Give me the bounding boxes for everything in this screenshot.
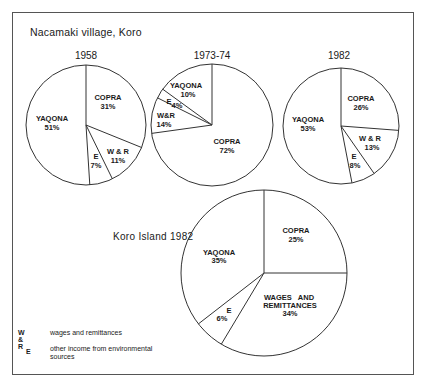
p4-copra-label: COPRA <box>282 226 310 235</box>
p1-yaqona-value: 51% <box>44 123 59 132</box>
p1-wr-label: W & R <box>107 147 130 156</box>
p1-copra-label: COPRA <box>94 93 122 102</box>
p2-e-value: 4% <box>172 101 183 110</box>
p3-copra-label: COPRA <box>347 94 375 103</box>
p2-wr-label: W&R <box>157 111 175 120</box>
p1-copra-value: 31% <box>100 102 115 111</box>
p4-yaqona-value: 35% <box>211 256 226 265</box>
p4-e-value: 6% <box>217 314 228 323</box>
p4-wr-value: 34% <box>282 309 297 318</box>
p2-wr-value: 14% <box>156 120 171 129</box>
p3-yaqona-label: YAQONA <box>292 115 325 124</box>
p2-copra-value: 72% <box>219 146 234 155</box>
p3-yaqona-value: 53% <box>300 124 315 133</box>
p3-wr-value: 13% <box>364 143 379 152</box>
p3-wr-label: W & R <box>359 134 382 143</box>
p1-e-label: E <box>93 152 98 161</box>
legend-key: E <box>26 348 31 355</box>
p1-yaqona-label: YAQONA <box>36 114 69 123</box>
p3-e-value: 8% <box>350 161 361 170</box>
p4-copra-value: 25% <box>288 235 303 244</box>
p3-copra-value: 26% <box>353 103 368 112</box>
pie-koro-island-1982 <box>181 190 347 356</box>
p2-yaqona-label: YAQONA <box>170 81 203 90</box>
legend-description: other income from environmental sources <box>50 345 160 361</box>
figure: Nacamaki village, Koro 1958 1973-74 1982… <box>0 0 427 386</box>
legend-description: wages and remittances <box>50 329 160 336</box>
p1-e-value: 7% <box>91 161 102 170</box>
legend-key: W & R <box>18 329 25 350</box>
p2-copra-label: COPRA <box>213 137 241 146</box>
p1-wr-value: 11% <box>111 156 126 165</box>
p3-e-label: E <box>351 152 356 161</box>
p2-yaqona-value: 10% <box>180 90 195 99</box>
